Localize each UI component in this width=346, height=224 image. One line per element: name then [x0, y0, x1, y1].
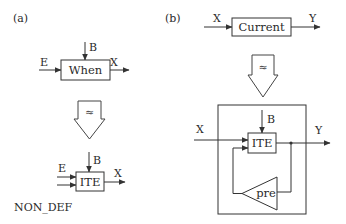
ite-a-input-e-label: E — [58, 162, 66, 175]
current-block-label: Current — [238, 20, 284, 34]
panel-a-label: (a) — [13, 12, 28, 25]
transform-arrow-a: ≈ — [74, 101, 105, 139]
ite-b-output-y-label: Y — [314, 124, 323, 137]
when-block-label: When — [69, 63, 103, 77]
ite-block-diagram-a: E B ITE X NON_DEF — [14, 152, 125, 214]
panel-b-label: (b) — [165, 12, 181, 25]
current-block-diagram: X Current Y — [204, 12, 320, 36]
ite-block-a-label: ITE — [80, 175, 101, 189]
diagram-canvas: (a) E B When X ≈ E B ITE X — [0, 0, 346, 224]
ite-block-b-label: ITE — [252, 136, 273, 150]
current-input-x-label: X — [213, 12, 221, 25]
when-block-diagram: E B When X — [39, 41, 129, 80]
transform-arrow-b: ≈ — [248, 55, 278, 97]
pre-block-label: pre — [256, 186, 276, 200]
approx-symbol: ≈ — [258, 61, 267, 74]
ite-b-input-b-label: B — [267, 113, 275, 126]
approx-symbol: ≈ — [85, 106, 94, 119]
when-output-x-label: X — [110, 56, 118, 69]
ite-a-output-x-label: X — [114, 167, 122, 180]
current-output-y-label: Y — [308, 12, 317, 25]
ite-b-input-x-label: X — [196, 123, 204, 136]
non-def-label: NON_DEF — [14, 201, 73, 214]
when-input-b-label: B — [89, 41, 97, 54]
ite-a-input-b-label: B — [93, 154, 101, 167]
when-input-e-label: E — [40, 56, 48, 69]
panel-a: (a) E B When X ≈ E B ITE X — [13, 12, 129, 214]
panel-b: (b) X Current Y ≈ X B ITE Y — [165, 12, 330, 214]
ite-pre-feedback-diagram: X B ITE Y pre — [194, 105, 330, 214]
